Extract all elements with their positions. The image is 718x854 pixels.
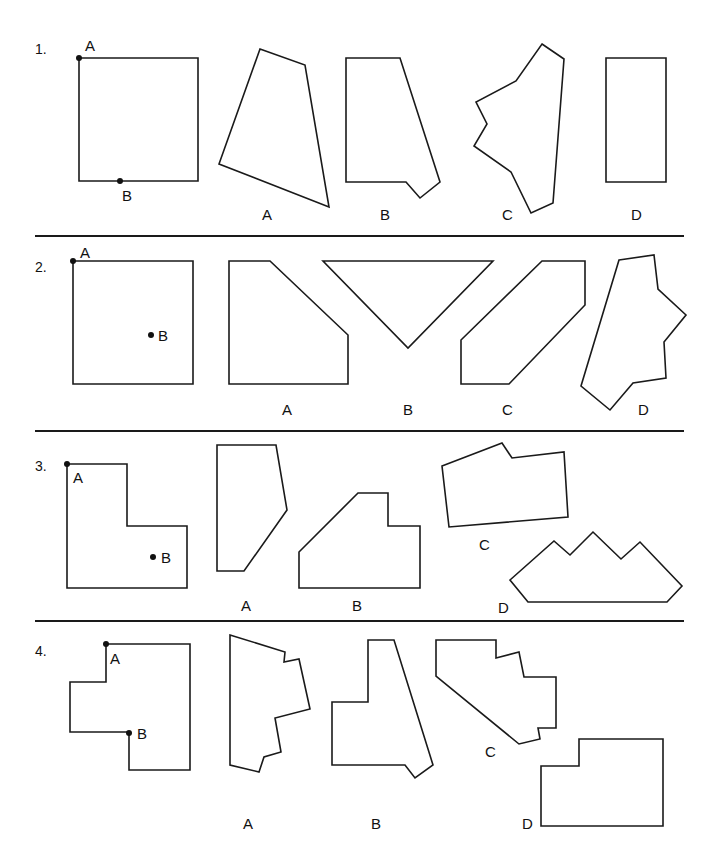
marker-label-b: B [161,550,171,565]
option-label-c: C [502,402,513,417]
option-shape-b[interactable] [346,58,440,198]
problem-number-2: 2. [35,260,47,274]
option-shape-c[interactable] [461,261,585,384]
option-label-b: B [352,598,362,613]
option-label-d: D [638,402,649,417]
option-shape-b[interactable] [299,493,420,588]
option-label-c: C [485,744,496,759]
option-label-a: A [282,402,292,417]
marker-point-b [126,730,132,736]
problem-number-1: 1. [35,42,47,56]
marker-point-b [150,554,156,560]
option-shape-a[interactable] [217,445,287,571]
source-shape-2 [73,261,193,384]
option-shape-d[interactable] [541,739,663,826]
problem-3 [64,443,682,602]
marker-point-a [70,258,76,264]
option-shape-c[interactable] [436,640,556,744]
marker-label-b: B [158,328,168,343]
problem-number-4: 4. [35,644,47,658]
option-label-c: C [479,537,490,552]
option-shape-a[interactable] [229,261,348,384]
option-label-a: A [262,207,272,222]
option-shape-d[interactable] [510,532,682,602]
option-label-d: D [522,816,533,831]
option-shape-a[interactable] [219,49,329,207]
option-label-b: B [380,207,390,222]
puzzle-canvas [0,0,718,854]
option-label-c: C [502,207,513,222]
problem-number-3: 3. [35,459,47,473]
source-shape-4 [70,644,190,770]
option-label-a: A [241,598,251,613]
row-separators [35,236,684,621]
option-shape-c[interactable] [442,443,568,527]
marker-label-a: A [85,38,95,53]
marker-point-b [117,178,123,184]
marker-point-b [148,332,154,338]
marker-label-a: A [73,470,83,485]
marker-point-a [76,55,82,61]
marker-label-a: A [110,651,120,666]
option-shape-a[interactable] [230,635,310,772]
source-shape-1 [79,58,198,181]
option-label-d: D [498,600,509,615]
problem-1 [76,44,666,213]
option-label-b: B [403,402,413,417]
marker-point-a [64,461,70,467]
shapes [64,44,686,826]
option-label-b: B [371,816,381,831]
option-shape-d[interactable] [581,255,686,410]
marker-label-b: B [122,188,132,203]
option-label-a: A [243,816,253,831]
marker-label-b: B [137,726,147,741]
source-shape-3 [67,464,187,588]
option-label-d: D [631,207,642,222]
option-shape-b[interactable] [332,640,433,778]
option-shape-d[interactable] [606,58,666,182]
problem-4 [70,635,663,826]
option-shape-c[interactable] [474,44,564,213]
marker-label-a: A [80,245,90,260]
marker-point-a [103,641,109,647]
